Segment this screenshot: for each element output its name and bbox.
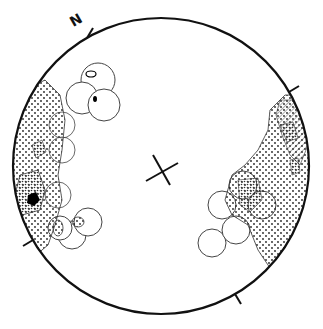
center-cross-icon bbox=[146, 155, 178, 185]
east-cluster bbox=[198, 95, 310, 268]
stereonet-svg bbox=[0, 0, 323, 329]
west-tick bbox=[23, 240, 33, 246]
density-contours bbox=[12, 63, 310, 268]
south-tick bbox=[235, 294, 241, 304]
east-tick bbox=[289, 86, 299, 92]
